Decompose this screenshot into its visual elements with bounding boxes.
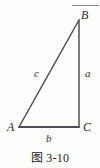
figure-caption: 图 3-10 (0, 148, 100, 166)
side-label-b: b (46, 133, 52, 144)
vertex-label-c: C (83, 121, 91, 133)
side-label-c: c (34, 68, 39, 79)
side-c-hypotenuse-line (19, 20, 79, 127)
figure-container: B A C a b c 图 3-10 (0, 0, 100, 168)
vertex-label-a: A (7, 121, 14, 133)
side-label-a: a (85, 68, 91, 79)
vertex-label-b: B (81, 9, 88, 21)
